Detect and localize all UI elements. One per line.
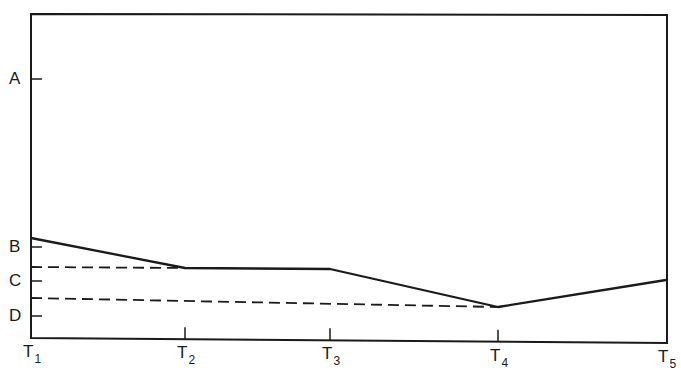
x-tick-subscript: 5 xyxy=(669,357,676,371)
x-tick-label: T2 xyxy=(177,344,195,361)
y-tick-label: B xyxy=(9,238,20,255)
x-tick-label: T4 xyxy=(490,347,508,364)
dashed-line-upper xyxy=(31,267,185,268)
x-tick-main: T xyxy=(490,346,500,365)
x-tick-label: T5 xyxy=(658,348,676,365)
y-tick-label: A xyxy=(9,70,20,87)
x-tick-subscript: 1 xyxy=(34,352,41,366)
x-tick-main: T xyxy=(177,343,187,362)
x-tick-main: T xyxy=(23,342,33,361)
y-tick-label: C xyxy=(9,272,21,289)
chart-frame xyxy=(31,14,667,343)
x-tick-label: T3 xyxy=(322,345,340,362)
line-diagram xyxy=(0,0,681,382)
x-tick-subscript: 2 xyxy=(188,353,195,367)
x-tick-main: T xyxy=(322,344,332,363)
frame-border xyxy=(31,14,667,343)
solid-line xyxy=(31,238,666,307)
dashed-line-lower xyxy=(31,298,498,307)
x-tick-subscript: 4 xyxy=(501,356,508,370)
x-tick-label: T1 xyxy=(23,343,41,360)
y-axis-ticks xyxy=(31,79,42,316)
y-tick-label: D xyxy=(9,307,21,324)
x-tick-main: T xyxy=(658,347,668,366)
x-tick-subscript: 3 xyxy=(333,354,340,368)
data-series xyxy=(31,238,666,307)
